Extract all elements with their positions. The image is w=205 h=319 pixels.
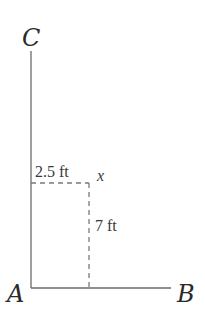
- vertical-dimension-label: 7 ft: [95, 217, 117, 234]
- variable-x-label: x: [96, 167, 104, 184]
- right-angle-diagram: C A B 2.5 ft x 7 ft: [0, 0, 205, 319]
- label-c: C: [22, 24, 40, 52]
- label-a: A: [5, 280, 24, 308]
- horizontal-dimension-label: 2.5 ft: [35, 163, 69, 180]
- label-b: B: [176, 280, 195, 308]
